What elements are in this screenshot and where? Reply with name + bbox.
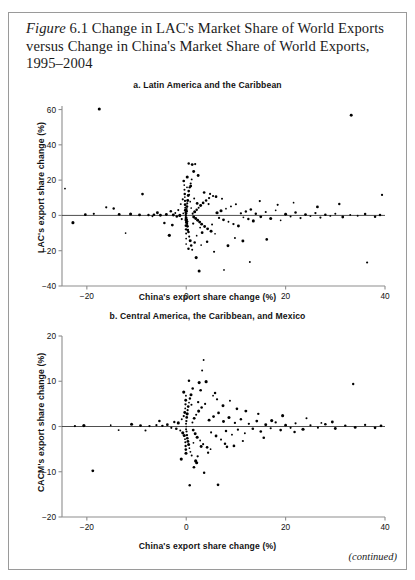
figure-number: 6.1 — [70, 20, 89, 36]
x-tick-label: −20 — [80, 522, 94, 532]
panel-b-y-axis-title: CACM's export share change (%) — [36, 353, 46, 492]
y-tick-label: 0 — [51, 210, 56, 220]
y-tick-label: 20 — [47, 175, 57, 185]
figure-label: Figure — [26, 20, 66, 36]
panel-b-x-axis-title: China's export share change (%) — [0, 541, 415, 551]
x-tick-label: 40 — [380, 522, 390, 532]
panel-b-subtitle: b. Central America, the Caribbean, and M… — [0, 311, 415, 321]
y-tick-label: 20 — [47, 331, 57, 341]
y-tick-label: 60 — [47, 105, 57, 115]
panel-a-x-axis-title: China's export share change (%) — [0, 292, 415, 302]
chart-panel-a: −40−200204060−2002040 — [0, 90, 415, 305]
y-tick-label: 0 — [51, 422, 56, 432]
chart-panel-b: −20−1001020−2002040 — [0, 322, 415, 537]
panel-a-subtitle: a. Latin America and the Caribbean — [0, 80, 415, 90]
panel-a-y-axis-title: LAC's export share change (%) — [36, 122, 46, 253]
y-tick-label: 10 — [47, 376, 57, 386]
figure-page: Figure 6.1 Change in LAC's Market Share … — [0, 0, 415, 580]
scatter-plot-a: −40−200204060−2002040 — [0, 90, 415, 305]
continued-note: (continued) — [349, 551, 397, 562]
x-tick-label: 0 — [184, 522, 189, 532]
figure-title: Figure 6.1 Change in LAC's Market Share … — [26, 20, 396, 73]
y-tick-label: −20 — [42, 512, 56, 522]
data-points — [64, 107, 383, 272]
data-points — [74, 359, 383, 487]
y-tick-label: 40 — [47, 140, 57, 150]
scatter-plot-b: −20−1001020−2002040 — [0, 322, 415, 537]
y-tick-label: −40 — [42, 281, 56, 291]
x-tick-label: 20 — [281, 522, 291, 532]
